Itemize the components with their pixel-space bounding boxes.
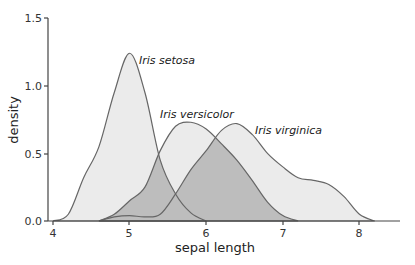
plot-area xyxy=(53,53,375,221)
label-iris-virginica: Iris virginica xyxy=(255,124,322,137)
x-tick-label: 5 xyxy=(126,227,133,240)
x-tick-label: 4 xyxy=(50,227,57,240)
y-tick-label: 0.0 xyxy=(25,215,43,228)
y-axis-title: density xyxy=(6,96,21,144)
x-tick-label: 7 xyxy=(280,227,287,240)
label-iris-versicolor: Iris versicolor xyxy=(160,108,235,121)
label-iris-setosa: Iris setosa xyxy=(139,54,195,67)
x-tick-label: 8 xyxy=(356,227,363,240)
x-axis-title: sepal length xyxy=(175,240,255,255)
y-tick-label: 1.5 xyxy=(25,12,43,25)
density-chart: 1.5 1.0 0.5 0.0 4 5 6 7 8 sepal length d… xyxy=(0,0,415,265)
y-tick-label: 0.5 xyxy=(25,148,43,161)
y-tick-label: 1.0 xyxy=(25,80,43,93)
x-tick-label: 6 xyxy=(203,227,210,240)
